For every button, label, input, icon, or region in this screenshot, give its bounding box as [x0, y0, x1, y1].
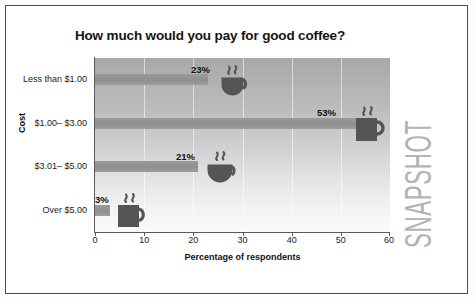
plot-area: 23% 53% [95, 58, 390, 232]
bar-row: 53% [95, 102, 390, 146]
coffee-cup-icon [216, 61, 252, 103]
bar-value-label: 21% [176, 151, 195, 162]
snapshot-watermark: SNAPSHOT [398, 120, 440, 248]
chart-title: How much would you pay for good coffee? [40, 28, 380, 43]
bar-row: 23% [95, 58, 390, 102]
bar-row: 3% [95, 189, 390, 233]
x-tick-label: 0 [92, 235, 97, 245]
coffee-mug-icon [113, 188, 153, 236]
coffee-cup-wide-icon [203, 147, 243, 191]
bar-row: 21% [95, 145, 390, 189]
coffee-mug-icon [350, 100, 390, 150]
bar[interactable] [95, 74, 208, 85]
bar-value-label: 3% [95, 194, 109, 205]
bar[interactable] [95, 118, 356, 129]
x-tick-label: 60 [384, 235, 394, 245]
x-tick-label: 50 [336, 235, 346, 245]
y-tick-label: $3.01– $5.00 [34, 145, 87, 189]
y-tick-label: Over $5.00 [42, 189, 87, 233]
x-tick-label: 20 [188, 235, 198, 245]
y-axis-tick-labels: Less than $1.00 $1.00– $3.00 $3.01– $5.0… [0, 58, 92, 232]
x-axis-tick-labels: 0 10 20 30 40 50 60 [95, 235, 390, 249]
snapshot-chart-page: How much would you pay for good coffee? … [0, 0, 475, 301]
x-tick-label: 40 [287, 235, 297, 245]
y-tick-label: $1.00– $3.00 [34, 102, 87, 146]
x-axis-title: Percentage of respondents [95, 252, 390, 262]
bar-value-label: 53% [317, 107, 336, 118]
x-tick-label: 30 [237, 235, 247, 245]
y-axis-line [94, 57, 95, 233]
bar-value-label: 23% [191, 64, 210, 75]
y-tick-label: Less than $1.00 [23, 58, 87, 102]
bar[interactable] [95, 205, 110, 216]
x-tick-label: 10 [139, 235, 149, 245]
bar[interactable] [95, 161, 198, 172]
bar-series: 23% 53% [95, 58, 390, 232]
